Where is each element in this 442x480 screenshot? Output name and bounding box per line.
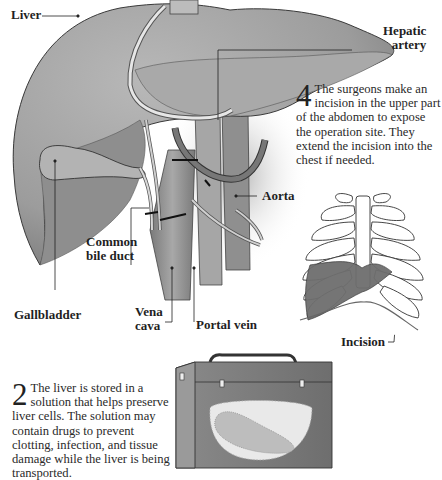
label-common-bile-duct-line1: Common [86,235,137,249]
label-liver: Liver [11,8,41,22]
step-4-number: 4 [296,83,312,109]
label-portal-vein: Portal vein [196,318,257,332]
step-4-text: The surgeons make an incision in the upp… [296,82,440,167]
label-common-bile-duct-line2: bile duct [86,249,137,263]
top-vessel-stub [170,0,198,14]
step-2-caption: 2The liver is stored in a solution that … [12,381,172,480]
label-hepatic-artery-line2: artery [383,38,426,52]
transport-case [176,355,332,468]
vena-cava-vessel [150,150,195,300]
label-hepatic-artery-line1: Hepatic [383,24,426,38]
label-hepatic-artery: Hepatic artery [383,24,426,52]
label-vena-cava-line2: cava [135,319,163,333]
rib-cage [298,190,437,336]
label-vena-cava-line1: Vena [135,305,163,319]
label-vena-cava: Vena cava [135,305,163,333]
step-4-caption: 4The surgeons make an incision in the up… [296,82,442,167]
label-aorta: Aorta [262,189,295,203]
portal-vein-vessel [195,110,222,285]
label-common-bile-duct: Common bile duct [86,235,137,263]
label-gallbladder: Gallbladder [14,308,81,322]
label-incision: Incision [341,335,385,349]
aorta-vessel [222,110,250,270]
step-2-number: 2 [12,382,28,408]
step-2-text: The liver is stored in a solution that h… [12,381,170,480]
